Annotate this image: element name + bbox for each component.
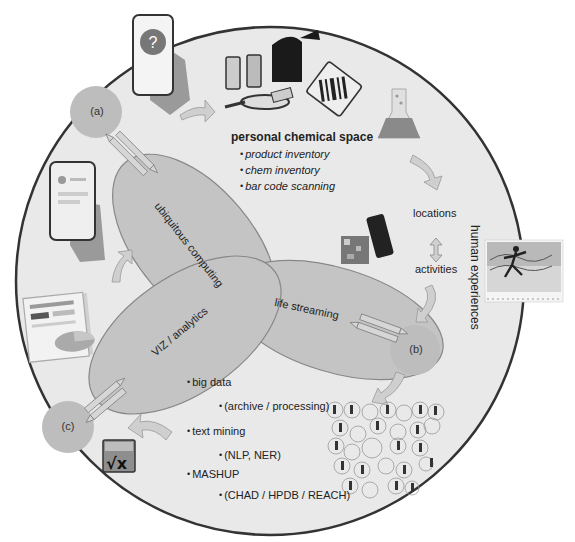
runner-chart-icon: [485, 240, 563, 302]
analytics-sub-archive-processing: (archive / processing): [219, 400, 329, 412]
pcs-item-bar-code-scanning: bar code scanning: [240, 180, 335, 192]
diagram-canvas: ?: [0, 0, 575, 542]
analytics-item-mashup: MASHUP: [187, 468, 239, 480]
node-a-label: (a): [86, 105, 108, 117]
analytics-item-big-data: big data: [187, 376, 231, 388]
analytics-sub-chad-hpdb-reach: (CHAD / HPDB / REACH): [219, 489, 350, 501]
svg-text:√x: √x: [106, 454, 128, 473]
analytics-item-text-mining: text mining: [187, 425, 245, 437]
activities-label: activities: [415, 263, 457, 275]
node-c-label: (c): [57, 420, 79, 432]
report-chart-icon: [23, 292, 96, 363]
human-experiences-label: human experiences: [468, 225, 482, 330]
personal-chemical-space-title: personal chemical space: [231, 130, 373, 144]
svg-text:?: ?: [149, 34, 158, 51]
pcs-item-chem-inventory: chem inventory: [240, 164, 320, 176]
analytics-sub-nlp-ner: (NLP, NER): [219, 449, 281, 461]
node-b-label: (b): [405, 343, 427, 355]
pcs-item-product-inventory: product inventory: [240, 148, 330, 160]
locations-label: locations: [413, 207, 456, 219]
sqrt-x-icon: √x: [103, 440, 135, 473]
